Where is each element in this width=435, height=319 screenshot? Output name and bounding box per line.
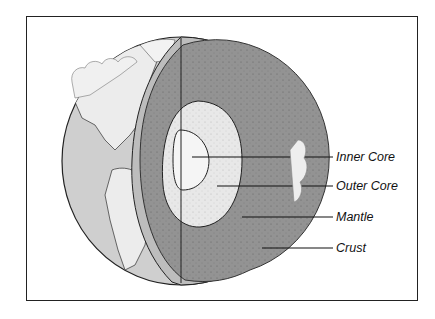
label-crust: Crust [336, 241, 366, 255]
label-outer-core: Outer Core [336, 179, 398, 193]
label-mantle: Mantle [336, 210, 374, 224]
label-inner-core: Inner Core [336, 150, 395, 164]
